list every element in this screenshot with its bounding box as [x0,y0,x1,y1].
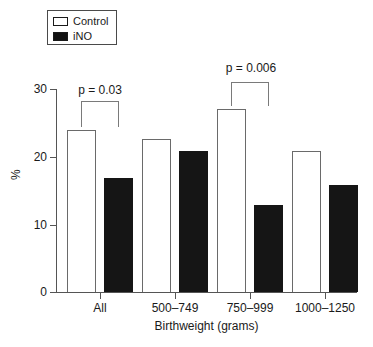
x-tick-label-500-749: 500–749 [135,302,215,315]
x-axis-line [56,292,357,293]
bar-chart-figure: Control iNO 30 20 10 0 % [0,0,373,347]
x-tick-label-750-999: 750–999 [210,302,290,315]
x-tick-all [100,293,101,299]
y-tick-label-10: 10 [34,219,47,231]
significance-bracket-750-999 [231,82,269,106]
bar-ino-500-749 [179,151,208,292]
y-tick-10 [50,225,56,226]
y-tick-30 [50,89,56,90]
bar-ino-1000-1250 [329,185,358,292]
bar-control-750-999 [217,109,246,292]
y-tick-label-20: 20 [34,151,47,163]
bar-ino-all [104,178,133,292]
y-tick-0 [50,292,56,293]
bar-ino-750-999 [254,205,283,292]
y-tick-label-30: 30 [34,83,47,95]
bar-control-1000-1250 [292,151,321,292]
x-tick-label-1000-1250: 1000–1250 [281,302,369,315]
p-value-750-999: p = 0.006 [210,62,292,74]
plot-area: 30 20 10 0 % p = 0.03 p = 0.006 All 500–… [0,0,373,347]
bar-control-all [67,130,96,292]
bar-control-500-749 [142,139,171,292]
y-axis-title: % [10,169,22,180]
y-tick-20 [50,157,56,158]
y-axis-line [56,89,57,293]
x-tick-label-all: All [60,302,140,315]
y-tick-label-0: 0 [40,286,47,298]
x-tick-750-999 [250,293,251,299]
x-tick-500-749 [175,293,176,299]
x-tick-1000-1250 [325,293,326,299]
p-value-all: p = 0.03 [60,84,140,96]
x-axis-title: Birthweight (grams) [56,320,357,333]
significance-bracket-all [81,101,119,127]
